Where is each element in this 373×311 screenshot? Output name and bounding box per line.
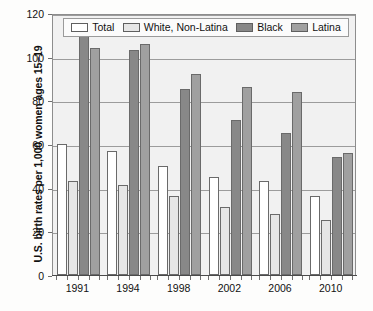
x-tick-mark	[251, 276, 252, 280]
bar	[191, 74, 201, 275]
x-tick-mark	[157, 276, 158, 280]
x-tick-label: 1998	[157, 283, 201, 294]
x-tick-label: 1991	[55, 283, 99, 294]
y-tick-mark	[48, 276, 52, 277]
legend-item[interactable]: Total	[71, 22, 114, 33]
x-tick-label: 1994	[106, 283, 150, 294]
bar	[231, 120, 241, 275]
x-tick-mark	[118, 276, 119, 280]
bar	[90, 48, 100, 275]
bar	[332, 157, 342, 275]
x-tick-mark	[342, 276, 343, 280]
x-tick-mark	[302, 276, 303, 280]
x-tick-mark	[67, 276, 68, 280]
bar	[118, 185, 128, 275]
bar-series-container	[53, 15, 355, 275]
bar	[343, 153, 353, 275]
y-tick-label: 40	[14, 184, 44, 195]
y-tick-label: 20	[14, 227, 44, 238]
x-tick-mark	[320, 276, 321, 280]
x-tick-mark	[179, 276, 180, 280]
legend-item[interactable]: Latina	[291, 22, 341, 33]
x-tick-mark	[259, 276, 260, 280]
chart-legend: TotalWhite, Non-LatinaBlackLatina	[63, 18, 349, 37]
legend-item[interactable]: Black	[236, 22, 283, 33]
bar	[281, 133, 291, 275]
x-tick-mark	[150, 276, 151, 280]
x-tick-mark	[331, 276, 332, 280]
bar	[68, 181, 78, 275]
x-tick-mark	[230, 276, 231, 280]
y-tick-label: 80	[14, 96, 44, 107]
bar	[79, 26, 89, 275]
x-tick-mark	[200, 276, 201, 280]
bar	[169, 196, 179, 275]
bar	[180, 89, 190, 275]
legend-item[interactable]: White, Non-Latina	[123, 22, 228, 33]
y-tick-label: 0	[14, 271, 44, 282]
y-tick-label: 120	[14, 9, 44, 20]
x-tick-mark	[292, 276, 293, 280]
bar-group	[154, 15, 205, 275]
bar	[209, 177, 219, 275]
x-tick-mark	[241, 276, 242, 280]
x-tick-mark	[78, 276, 79, 280]
bar	[158, 166, 168, 275]
x-tick-mark	[190, 276, 191, 280]
x-tick-label: 2002	[207, 283, 251, 294]
x-tick-mark	[140, 276, 141, 280]
x-tick-mark	[309, 276, 310, 280]
bar-group	[53, 15, 104, 275]
x-tick-mark	[281, 276, 282, 280]
bar	[270, 214, 280, 275]
bar	[129, 50, 139, 275]
x-tick-label: 2010	[309, 283, 353, 294]
bar	[321, 220, 331, 275]
bar-group	[256, 15, 307, 275]
x-tick-mark	[56, 276, 57, 280]
x-axis-line	[52, 275, 357, 276]
legend-swatch-icon	[71, 23, 88, 32]
bar	[259, 181, 269, 275]
legend-swatch-icon	[123, 23, 140, 32]
bar	[242, 87, 252, 275]
x-tick-mark	[208, 276, 209, 280]
chart-figure: U.S. birth rates per 1,000 women ages 15…	[0, 0, 373, 311]
x-tick-label: 2006	[258, 283, 302, 294]
bar	[310, 196, 320, 275]
y-tick-label: 100	[14, 53, 44, 64]
bar	[107, 151, 117, 275]
bar-group	[205, 15, 256, 275]
legend-label: White, Non-Latina	[144, 22, 228, 33]
bar-group	[104, 15, 155, 275]
bar	[292, 92, 302, 275]
y-tick-label: 60	[14, 140, 44, 151]
legend-swatch-icon	[291, 23, 308, 32]
x-tick-mark	[129, 276, 130, 280]
x-tick-mark	[352, 276, 353, 280]
x-tick-mark	[219, 276, 220, 280]
legend-label: Latina	[312, 22, 341, 33]
x-tick-mark	[270, 276, 271, 280]
plot-area: TotalWhite, Non-LatinaBlackLatina	[52, 14, 356, 276]
bar	[57, 144, 67, 275]
bar	[140, 44, 150, 275]
x-tick-mark	[89, 276, 90, 280]
legend-label: Black	[257, 22, 283, 33]
x-tick-mark	[107, 276, 108, 280]
x-tick-mark	[168, 276, 169, 280]
bar	[220, 207, 230, 275]
bar-group	[306, 15, 357, 275]
x-tick-mark	[99, 276, 100, 280]
legend-swatch-icon	[236, 23, 253, 32]
legend-label: Total	[92, 22, 114, 33]
